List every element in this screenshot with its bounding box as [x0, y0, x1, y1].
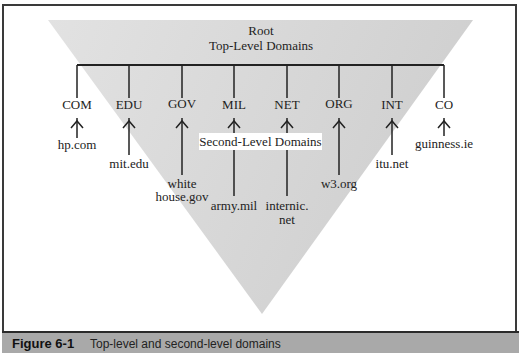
tld-co: CO	[414, 98, 474, 112]
example-w3-org: w3.org	[299, 177, 379, 191]
tld-net: NET	[257, 98, 317, 112]
tld-org: ORG	[309, 97, 369, 111]
example-guinness-ie: guinness.ie	[399, 137, 489, 151]
tld-edu: EDU	[99, 98, 159, 112]
example-itu-net: itu.net	[352, 157, 432, 171]
example-internic-line2: net	[247, 213, 327, 227]
figure-caption: Top-level and second-level domains	[90, 337, 281, 351]
root-label: Root	[211, 24, 311, 38]
example-internic-line1: internic.	[247, 199, 327, 213]
caption-bar: Figure 6-1 Top-level and second-level do…	[2, 331, 519, 353]
second-level-domains-label: Second-Level Domains	[199, 135, 322, 149]
tld-mil: MIL	[204, 98, 264, 112]
figure-number: Figure 6-1	[12, 336, 74, 351]
example-mit-edu: mit.edu	[89, 157, 169, 171]
tld-com: COM	[47, 98, 107, 112]
top-level-domains-label: Top-Level Domains	[191, 39, 331, 53]
tld-int: INT	[362, 98, 422, 112]
example-hp-com: hp.com	[37, 138, 117, 152]
tld-gov: GOV	[152, 97, 212, 111]
